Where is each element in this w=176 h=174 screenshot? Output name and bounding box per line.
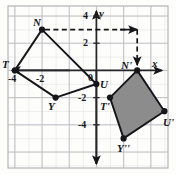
label-Y: Y	[48, 101, 55, 112]
label-T-prime: T'	[100, 101, 110, 112]
tick-origin: 0	[88, 73, 93, 83]
tick-x-neg4: -4	[8, 74, 16, 84]
label-Y-prime: Y''	[117, 143, 130, 154]
vertex-N-prime	[134, 67, 140, 73]
tick-y-2: 2	[83, 38, 88, 48]
x-axis-label: x	[152, 58, 158, 69]
vertex-Y-prime	[121, 135, 127, 141]
vertex-U-prime	[161, 108, 167, 114]
tick-y-4: 4	[83, 11, 88, 21]
label-N: N	[33, 17, 41, 28]
label-N-prime: N'	[121, 60, 132, 71]
label-T: T	[2, 59, 9, 70]
vertex-U	[93, 81, 99, 87]
tick-x-neg2: -2	[36, 74, 44, 84]
label-U: U	[100, 79, 108, 90]
tick-y-neg2: -2	[78, 93, 86, 103]
coordinate-plot-svg	[0, 0, 176, 174]
y-axis-label: y	[99, 8, 104, 19]
tick-y-neg4: -4	[78, 120, 86, 130]
coordinate-plane-figure: T N U Y N' U' Y'' T' y x 0 -4 -2 4 2 -2 …	[0, 0, 176, 174]
label-U-prime: U'	[163, 117, 174, 128]
